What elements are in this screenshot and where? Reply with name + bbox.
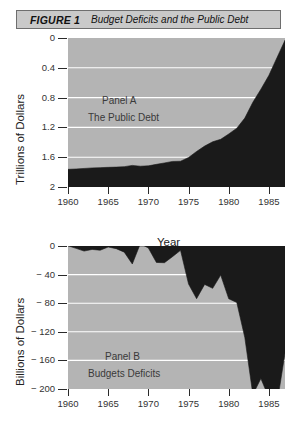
x-tick-label: 1960 — [48, 398, 88, 409]
y-tick-mark — [58, 389, 67, 390]
figure-number-label: FIGURE 1 — [30, 14, 80, 26]
x-tick-mark — [189, 187, 190, 194]
figure-title-text: Budget Deficits and the Public Debt — [91, 14, 248, 25]
y-tick-mark — [58, 332, 67, 333]
x-tick-mark — [68, 389, 69, 396]
panel-a-y-axis-title: Trillions of Dollars — [14, 94, 26, 185]
x-tick-mark — [269, 389, 270, 396]
y-tick-label: − 120 — [11, 326, 55, 337]
x-tick-mark — [229, 187, 230, 194]
panel-b-budget-deficits: Billions of Dollars 0− 40− 80− 120− 160−… — [0, 240, 297, 439]
x-tick-label: 1975 — [169, 196, 209, 207]
x-tick-mark — [269, 187, 270, 194]
y-tick-label: 0.8 — [11, 92, 55, 103]
y-tick-label: 0.4 — [11, 62, 55, 73]
y-tick-mark — [58, 246, 67, 247]
x-tick-label: 1980 — [209, 196, 249, 207]
x-tick-mark — [229, 389, 230, 396]
y-tick-mark — [58, 303, 67, 304]
y-tick-mark — [58, 98, 67, 99]
x-tick-label: 1985 — [249, 398, 289, 409]
x-tick-mark — [68, 187, 69, 194]
x-tick-mark — [189, 389, 190, 396]
x-tick-label: 1980 — [209, 398, 249, 409]
y-tick-label: 1.6 — [11, 151, 55, 162]
y-tick-label: 0 — [11, 32, 55, 43]
y-tick-label: 0 — [11, 240, 55, 251]
y-tick-mark — [58, 360, 67, 361]
y-tick-label: 2 — [11, 181, 55, 192]
x-tick-label: 1975 — [169, 398, 209, 409]
figure-title-bar: FIGURE 1 Budget Deficits and the Public … — [16, 10, 281, 29]
x-tick-label: 1965 — [88, 398, 128, 409]
y-tick-mark — [58, 127, 67, 128]
panel-a-annotation-subtitle: The Public Debt — [88, 112, 159, 123]
panel-a-annotation-title: Panel A — [102, 95, 136, 106]
x-tick-mark — [148, 187, 149, 194]
x-tick-label: 1970 — [128, 196, 168, 207]
x-tick-label: 1965 — [88, 196, 128, 207]
y-tick-label: 1.2 — [11, 121, 55, 132]
panel-b-y-axis-title: Billions of Dollars — [14, 298, 26, 386]
y-tick-mark — [58, 187, 67, 188]
y-tick-label: − 40 — [11, 269, 55, 280]
y-tick-mark — [58, 157, 67, 158]
x-tick-mark — [148, 389, 149, 396]
y-tick-mark — [58, 68, 67, 69]
y-tick-label: − 80 — [11, 297, 55, 308]
y-tick-label: − 200 — [11, 383, 55, 394]
panel-b-annotation-subtitle: Budgets Deficits — [88, 368, 160, 379]
x-tick-label: 1960 — [48, 196, 88, 207]
x-tick-mark — [108, 187, 109, 194]
x-tick-label: 1970 — [128, 398, 168, 409]
panel-b-annotation-title: Panel B — [105, 351, 140, 362]
panel-a-public-debt: Trillions of Dollars Panel A The Public … — [0, 36, 297, 221]
y-tick-mark — [58, 275, 67, 276]
y-tick-mark — [58, 38, 67, 39]
y-tick-label: − 160 — [11, 354, 55, 365]
x-tick-mark — [108, 389, 109, 396]
x-tick-label: 1985 — [249, 196, 289, 207]
